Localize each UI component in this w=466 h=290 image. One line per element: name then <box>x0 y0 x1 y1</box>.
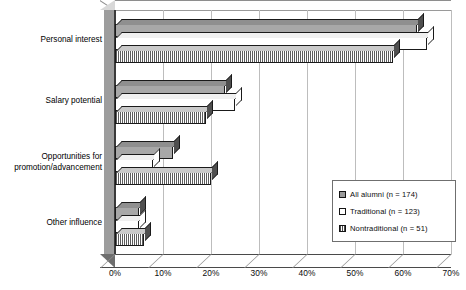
bar-top-face <box>116 19 424 25</box>
category-label-3: Opportunities forpromotion/advancement <box>0 132 108 193</box>
category-label-line: Salary potential <box>46 96 102 107</box>
category-label-line: Personal interest <box>41 35 102 46</box>
plot-side-wall-top <box>100 0 115 10</box>
bar-top-face <box>116 167 218 173</box>
bar-nontrad-2 <box>115 111 206 124</box>
legend-item-3: Nontraditional (n = 51) <box>339 220 455 237</box>
bar-nontrad-1 <box>115 50 393 63</box>
legend-swatch-icon <box>339 208 346 215</box>
x-tick-label: 70% <box>443 268 460 278</box>
x-tick-label: 30% <box>251 268 268 278</box>
legend-item-2: Traditional (n = 123) <box>339 203 455 220</box>
floor-tick-30 <box>244 254 260 268</box>
bar-chart: Personal interestSalary potentialOpportu… <box>0 0 466 290</box>
bar-nontrad-4 <box>115 233 144 246</box>
category-label-line: promotion/advancement <box>14 163 102 174</box>
category-label-line: Other influence <box>46 218 102 229</box>
category-label-line: Opportunities for <box>14 152 102 163</box>
category-label-1: Personal interest <box>0 10 108 71</box>
legend-item-1: All alumni (n = 174) <box>339 186 455 203</box>
x-tick-label: 60% <box>395 268 412 278</box>
legend-label: Traditional (n = 123) <box>350 207 420 216</box>
legend-swatch-icon <box>339 225 346 232</box>
bar-top-face <box>116 141 180 147</box>
floor-tick-40 <box>292 254 308 268</box>
legend: All alumni (n = 174)Traditional (n = 123… <box>332 180 456 242</box>
floor-tick-10 <box>148 254 164 268</box>
x-tick-label: 50% <box>347 268 364 278</box>
floor-tick-20 <box>196 254 212 268</box>
bar-top-face <box>116 32 434 38</box>
bar-top-face <box>116 45 400 51</box>
legend-swatch-icon <box>339 191 346 198</box>
plot-top-edge <box>115 0 451 1</box>
plot-top-face <box>115 0 451 10</box>
category-label-4: Other influence <box>0 193 108 254</box>
x-tick-label: 20% <box>203 268 220 278</box>
legend-items: All alumni (n = 174)Traditional (n = 123… <box>339 186 455 237</box>
x-tick-label: 40% <box>299 268 316 278</box>
category-label-2: Salary potential <box>0 71 108 132</box>
floor-tick-70 <box>436 254 452 268</box>
x-tick-label: 0% <box>109 268 121 278</box>
bar-nontrad-3 <box>115 172 211 185</box>
legend-label: All alumni (n = 174) <box>350 190 418 199</box>
x-tick-label: 10% <box>155 268 172 278</box>
bar-top-face <box>116 93 242 99</box>
bar-top-face <box>116 80 232 86</box>
legend-label: Nontraditional (n = 51) <box>350 224 428 233</box>
bar-top-face <box>116 106 213 112</box>
floor-tick-60 <box>388 254 404 268</box>
floor-tick-50 <box>340 254 356 268</box>
